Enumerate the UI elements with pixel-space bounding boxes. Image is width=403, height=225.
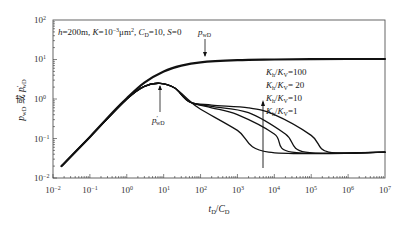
- derivative-curve: [62, 83, 386, 166]
- plot-frame: [53, 20, 385, 178]
- pwd-label: pwD: [197, 27, 212, 38]
- pressure-curve: [62, 59, 386, 166]
- chart: 102 101 100 10−1 10−2 10−2 10−1 100 101 …: [0, 0, 403, 225]
- y-tick-labels: 102 101 100 10−1 10−2: [34, 15, 49, 183]
- curves: [62, 59, 386, 166]
- x-tick-labels: 10−2 10−1 100 101 102 103 104 105 106 10…: [45, 185, 391, 195]
- y-tick-label: 100: [34, 94, 46, 104]
- x-tick-label: 103: [232, 185, 244, 195]
- x-tick-label: 102: [195, 185, 207, 195]
- y-axis-title: pwD 或 p′wD: [15, 79, 27, 122]
- y-tick-label: 10−2: [34, 173, 49, 183]
- x-tick-label: 10−1: [82, 185, 97, 195]
- x-axis-title: tD/CD: [208, 204, 229, 215]
- x-tick-label: 105: [305, 185, 317, 195]
- x-tick-label: 10−2: [45, 185, 60, 195]
- x-tick-label: 100: [121, 185, 133, 195]
- axis-ticks: [53, 22, 383, 178]
- x-tick-label: 106: [342, 185, 354, 195]
- pwd-derivative-label: p′wD: [151, 114, 165, 126]
- legend-entry: Kh/KV=10: [265, 93, 302, 104]
- x-tick-label: 101: [158, 185, 170, 195]
- legend-entry: Kh/KV=100: [265, 67, 307, 78]
- x-tick-label: 104: [268, 185, 280, 195]
- parameter-annotation: h=200m, K=10−3μm2, CD=10, S=0: [58, 27, 182, 38]
- pwd-arrow: [203, 39, 207, 57]
- y-tick-label: 10−1: [34, 134, 49, 144]
- pwd-derivative-arrow: [158, 85, 162, 112]
- x-tick-label: 107: [379, 185, 391, 195]
- y-tick-label: 101: [34, 54, 46, 64]
- legend-entry: Kh/KV=1: [265, 106, 297, 117]
- legend: Kh/KV=100 Kh/KV= 20 Kh/KV=10 Kh/KV=1: [265, 67, 307, 117]
- y-tick-label: 102: [34, 15, 46, 25]
- legend-entry: Kh/KV= 20: [265, 80, 305, 91]
